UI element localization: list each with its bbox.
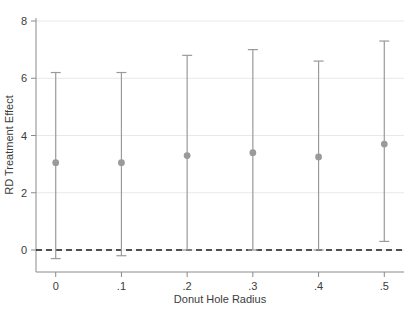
data-point-marker-2	[184, 152, 191, 159]
x-tick-label-5: .5	[380, 280, 389, 292]
x-tick-label-0: 0	[53, 280, 59, 292]
chart-background	[0, 0, 411, 311]
chart-container: 02468 0.1.2.3.4.5 RD Treatment Effect Do…	[0, 0, 411, 311]
y-tick-label-4: 4	[21, 130, 27, 142]
data-point-marker-0	[52, 159, 59, 166]
x-tick-label-2: .2	[183, 280, 192, 292]
y-tick-label-0: 0	[21, 244, 27, 256]
x-tick-label-1: .1	[117, 280, 126, 292]
y-tick-label-8: 8	[21, 15, 27, 27]
data-point-marker-4	[315, 154, 322, 161]
x-tick-label-3: .3	[248, 280, 257, 292]
y-tick-label-2: 2	[21, 187, 27, 199]
y-axis-title: RD Treatment Effect	[3, 95, 15, 194]
x-axis-title: Donut Hole Radius	[174, 293, 267, 305]
x-tick-label-4: .4	[314, 280, 323, 292]
data-point-marker-1	[118, 159, 125, 166]
y-tick-label-6: 6	[21, 72, 27, 84]
data-point-marker-5	[381, 141, 388, 148]
data-point-marker-3	[249, 149, 256, 156]
rd-treatment-effect-chart: 02468 0.1.2.3.4.5 RD Treatment Effect Do…	[0, 0, 411, 311]
